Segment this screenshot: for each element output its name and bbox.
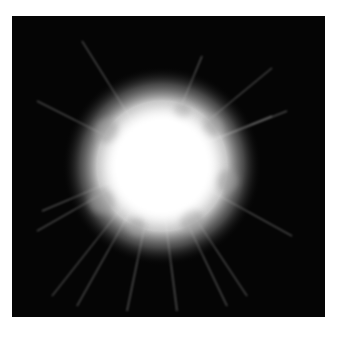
explosion-burst-graphic [12, 16, 325, 317]
explosion-image [12, 16, 325, 317]
